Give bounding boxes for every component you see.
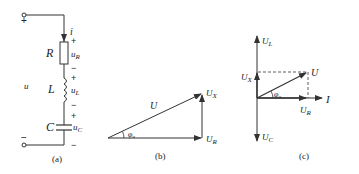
inductor (64, 78, 67, 102)
current-arrow-icon (61, 34, 67, 42)
c-plus: + (71, 111, 76, 121)
ur-label: uR (71, 49, 81, 61)
caption-c: (c) (299, 151, 309, 161)
ur-label-b: UR (206, 134, 218, 146)
angle-arc (123, 132, 125, 139)
rlc-circuit-diagram: + − u i + R uR − + L uL − + C uC − (a) U… (0, 0, 359, 174)
uc-label: UC (262, 132, 274, 144)
phi-label-c: φu (274, 90, 281, 99)
ul-label: UL (262, 36, 273, 48)
angle-arc-c (271, 91, 273, 98)
resistor-label: R (45, 46, 54, 60)
phasor-diagram-c: UL UX UC U UR I φu (c) (241, 36, 331, 161)
l-plus: + (71, 73, 76, 83)
uc-label: uC (73, 122, 83, 134)
r-plus: + (71, 36, 76, 46)
top-plus-sign: + (21, 15, 27, 26)
i-label-c: I (325, 93, 331, 105)
resistor (60, 42, 68, 64)
u-label-b: U (150, 100, 158, 111)
u-label-c: U (311, 67, 319, 78)
phi-label-b: φu (128, 130, 135, 139)
bottom-terminal (22, 143, 26, 147)
l-minus: − (71, 100, 76, 110)
ux-label-b: UX (206, 88, 218, 100)
r-minus: − (71, 63, 76, 73)
c-minus: − (71, 140, 76, 150)
phasor-triangle-b: U φu UX UR (b) (108, 88, 218, 161)
capacitor-label: C (46, 120, 55, 134)
inductor-label: L (47, 82, 55, 96)
source-voltage-label: u (24, 81, 29, 91)
caption-a: (a) (52, 154, 62, 164)
u-vector-c (257, 73, 306, 98)
ur-label-c: UR (300, 105, 312, 117)
ul-label: uL (71, 85, 80, 97)
bottom-minus-sign: − (21, 132, 27, 143)
caption-b: (b) (155, 151, 166, 161)
circuit-a: + − u i + R uR − + L uL − + C uC − (a) (21, 13, 83, 164)
ux-label-c: UX (241, 72, 253, 84)
